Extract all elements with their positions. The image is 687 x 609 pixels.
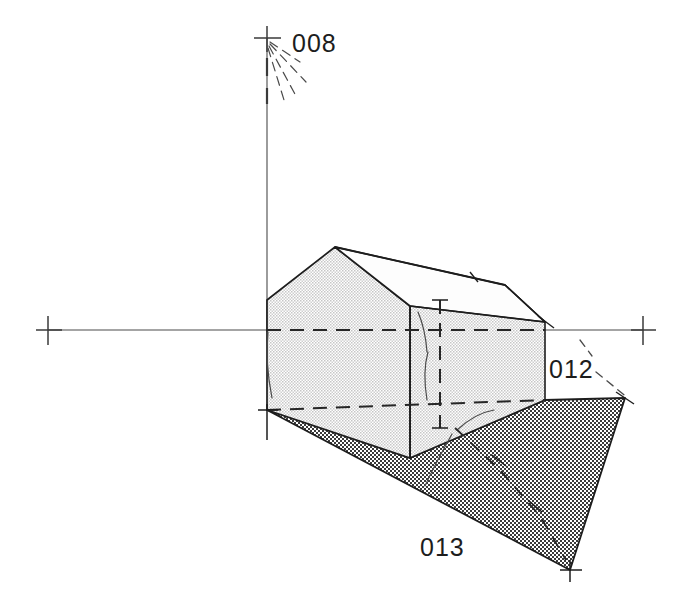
axonometric-drawing-canvas: 008 012 013 [0, 0, 687, 609]
drawing-sheet: 008 012 013 [0, 0, 687, 609]
label-012: 012 [549, 355, 594, 383]
label-013: 013 [420, 533, 465, 561]
label-008: 008 [292, 29, 337, 57]
